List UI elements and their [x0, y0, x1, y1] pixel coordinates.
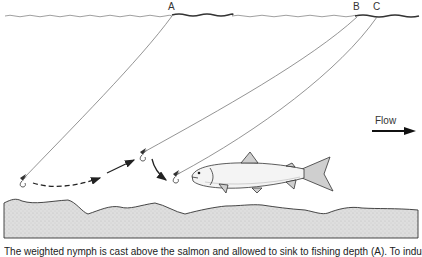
- water-surface: [5, 14, 419, 17]
- fly-icon-a: [20, 174, 28, 187]
- riverbed: [4, 199, 418, 238]
- solid-arrow-icon: [107, 160, 134, 173]
- dashed-arrow-icon: [33, 178, 100, 186]
- fly-icon-c: [173, 170, 181, 183]
- flow-label: Flow: [375, 116, 396, 126]
- fly-icon-b: [140, 148, 148, 161]
- nymph-fishing-diagram: [0, 0, 422, 257]
- line-a: [24, 16, 172, 178]
- position-label-a: A: [168, 2, 175, 12]
- salmon-icon: [192, 152, 333, 193]
- curved-arrow-icon: [152, 159, 166, 180]
- figure-caption: The weighted nymph is cast above the sal…: [4, 247, 422, 257]
- flow-arrowhead-icon: [404, 127, 416, 135]
- line-c: [178, 17, 377, 174]
- position-label-b: B: [353, 2, 360, 12]
- line-b: [144, 17, 357, 152]
- position-label-c: C: [373, 2, 380, 12]
